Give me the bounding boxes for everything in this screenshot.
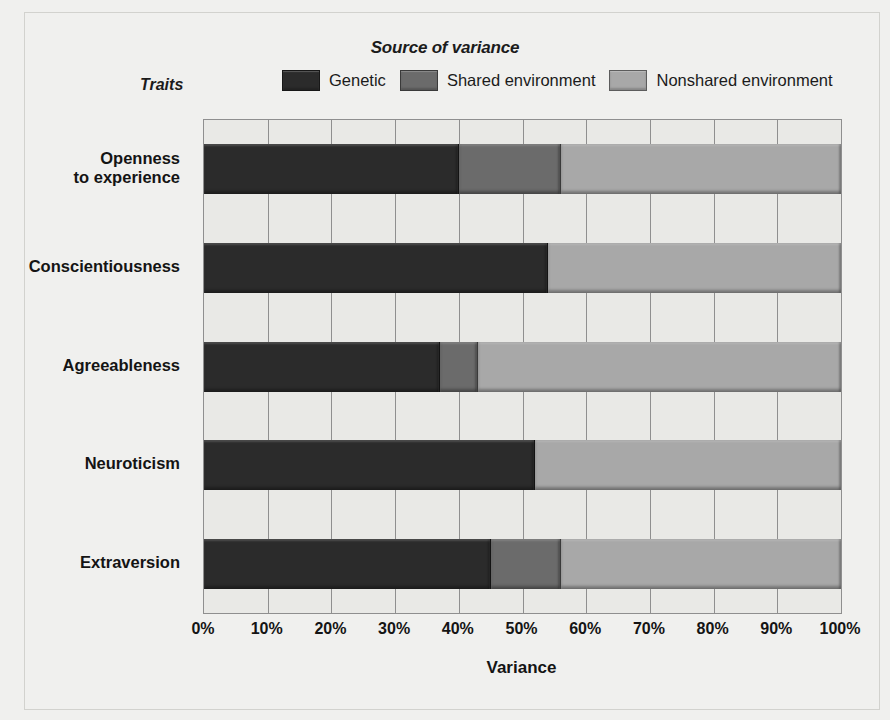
x-axis-tick-label: 40%	[442, 620, 474, 638]
x-axis-tick-label: 10%	[251, 620, 283, 638]
bar-row	[204, 440, 841, 490]
y-axis-tick-label: Conscientiousness	[0, 257, 180, 276]
bars-layer	[204, 120, 841, 613]
x-axis-tick-label: 20%	[314, 620, 346, 638]
bar-segment	[204, 144, 459, 194]
bar-segment	[561, 144, 841, 194]
bar-segment	[440, 342, 478, 392]
y-axis-tick-label: Opennessto experience	[0, 149, 180, 188]
legend: Genetic Shared environment Nonshared env…	[282, 70, 847, 91]
legend-label-genetic: Genetic	[329, 71, 386, 90]
legend-item-shared-environment: Shared environment	[400, 70, 596, 91]
gridline	[841, 120, 842, 613]
legend-swatch-genetic	[282, 70, 320, 91]
bar-segment	[204, 342, 440, 392]
x-axis-title: Variance	[203, 658, 840, 678]
y-axis-tick-label-line: Openness	[0, 149, 180, 168]
legend-item-nonshared-environment: Nonshared environment	[609, 70, 832, 91]
x-axis-tick-label: 0%	[191, 620, 214, 638]
y-axis-tick-label: Neuroticism	[0, 454, 180, 473]
bar-row	[204, 342, 841, 392]
x-axis-tick-label: 60%	[569, 620, 601, 638]
legend-swatch-nonshared-environment	[609, 70, 647, 91]
bar-segment	[204, 243, 548, 293]
plot-area	[203, 119, 842, 614]
bar-segment	[491, 539, 561, 589]
bar-segment	[535, 440, 841, 490]
bar-segment	[478, 342, 841, 392]
legend-title: Source of variance	[0, 38, 890, 58]
x-axis-tick-label: 50%	[505, 620, 537, 638]
bar-segment	[204, 440, 535, 490]
bar-segment	[459, 144, 561, 194]
x-axis-tick-label: 30%	[378, 620, 410, 638]
bar-segment	[204, 539, 491, 589]
bar-row	[204, 144, 841, 194]
y-axis-tick-label-line: Conscientiousness	[0, 257, 180, 276]
y-axis-title: Traits	[140, 76, 183, 94]
y-axis-tick-label-line: Agreeableness	[0, 356, 180, 375]
y-axis-tick-label-line: to experience	[0, 168, 180, 187]
legend-swatch-shared-environment	[400, 70, 438, 91]
y-axis-tick-label-line: Extraversion	[0, 553, 180, 572]
legend-label-nonshared-environment: Nonshared environment	[656, 71, 832, 90]
x-axis-tick-label: 100%	[820, 620, 861, 638]
legend-label-shared-environment: Shared environment	[447, 71, 596, 90]
x-axis-tick-label: 80%	[697, 620, 729, 638]
y-axis-tick-label-line: Neuroticism	[0, 454, 180, 473]
chart-figure: Source of variance Traits Genetic Shared…	[0, 0, 890, 720]
bar-row	[204, 539, 841, 589]
bar-segment	[561, 539, 841, 589]
y-axis-tick-labels: Opennessto experienceConscientiousnessAg…	[0, 119, 190, 612]
x-axis-tick-label: 90%	[760, 620, 792, 638]
bar-row	[204, 243, 841, 293]
y-axis-tick-label: Agreeableness	[0, 356, 180, 375]
x-axis-tick-label: 70%	[633, 620, 665, 638]
bar-segment	[548, 243, 841, 293]
x-axis-tick-labels: 0%10%20%30%40%50%60%70%80%90%100%	[203, 620, 840, 650]
y-axis-tick-label: Extraversion	[0, 553, 180, 572]
legend-item-genetic: Genetic	[282, 70, 386, 91]
